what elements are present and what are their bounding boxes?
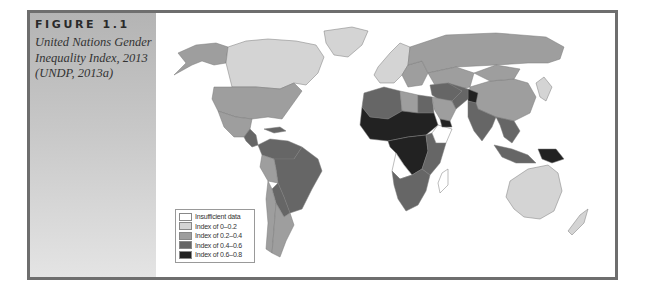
legend-item-c2: Index of 0.2–0.4 <box>179 231 251 241</box>
figure-label: FIGURE 1.1 <box>35 18 130 31</box>
map-region-southeast-asia <box>496 117 520 143</box>
map-region-madagascar <box>438 169 448 193</box>
legend-label: Insufficient data <box>195 213 241 220</box>
legend-swatch <box>179 232 192 240</box>
map-region-alaska-usa <box>174 43 228 75</box>
legend-swatch <box>179 241 192 249</box>
map-region-indonesia <box>494 145 536 163</box>
map-region-canada <box>226 39 324 89</box>
map-region-libya <box>400 91 418 113</box>
map-region-egypt <box>418 95 434 113</box>
map-region-papua-new-guinea <box>538 149 564 163</box>
figure-frame: FIGURE 1.1 United Nations Gender Inequal… <box>27 10 618 280</box>
map-region-caribbean <box>264 127 286 133</box>
map-region-australia <box>506 165 562 219</box>
legend-item-c3: Index of 0.4–0.6 <box>179 241 251 251</box>
legend-item-na: Insufficient data <box>179 212 251 222</box>
legend-label: Index of 0–0.2 <box>195 223 237 230</box>
legend-label: Index of 0.2–0.4 <box>195 232 242 239</box>
legend-label: Index of 0.4–0.6 <box>195 242 242 249</box>
map-region-russia <box>408 33 564 73</box>
legend-swatch <box>179 213 192 221</box>
legend-swatch <box>179 251 192 259</box>
legend-label: Index of 0.6–0.8 <box>195 251 242 258</box>
map-legend: Insufficient dataIndex of 0–0.2Index of … <box>175 209 255 263</box>
map-region-greenland <box>324 27 368 57</box>
map-region-japan-korea <box>536 77 552 101</box>
map-region-new-zealand <box>568 209 588 235</box>
legend-item-c1: Index of 0–0.2 <box>179 222 251 232</box>
figure-caption: United Nations Gender Inequality Index, … <box>35 35 153 82</box>
map-region-mongolia <box>474 65 520 81</box>
figure-sidebar: FIGURE 1.1 United Nations Gender Inequal… <box>30 13 156 277</box>
legend-swatch <box>179 222 192 230</box>
legend-item-c4: Index of 0.6–0.8 <box>179 250 251 260</box>
